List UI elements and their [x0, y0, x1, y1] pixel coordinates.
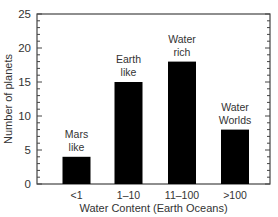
bar-chart: 0510152025Marslike<1Earthlike1–10Waterri… [0, 0, 278, 217]
bar-annotation: like [69, 141, 85, 153]
y-axis-title: Number of planets [2, 54, 14, 144]
y-tick-label: 20 [18, 42, 31, 54]
y-tick-label: 0 [25, 178, 31, 190]
bar-annotation: rich [174, 46, 191, 58]
bar-annotation: Water [168, 33, 196, 45]
y-tick-label: 5 [25, 144, 31, 156]
x-tick-label: 1–10 [117, 189, 141, 201]
bar [221, 130, 249, 184]
x-tick-label: <1 [71, 189, 83, 201]
bar [115, 82, 143, 184]
bar-annotation: like [121, 66, 137, 78]
x-tick-label: >100 [223, 189, 247, 201]
x-tick-label: 11–100 [165, 189, 199, 201]
bar-annotation: Worlds [219, 114, 251, 126]
bar [168, 62, 196, 184]
y-tick-label: 10 [18, 110, 31, 122]
bar-annotation: Water [221, 101, 249, 113]
bar-annotation: Mars [65, 128, 88, 140]
bar [63, 157, 91, 184]
y-tick-label: 25 [18, 8, 31, 20]
bar-annotation: Earth [116, 53, 141, 65]
y-tick-label: 15 [18, 76, 31, 88]
x-axis-title: Water Content (Earth Oceans) [79, 202, 227, 214]
